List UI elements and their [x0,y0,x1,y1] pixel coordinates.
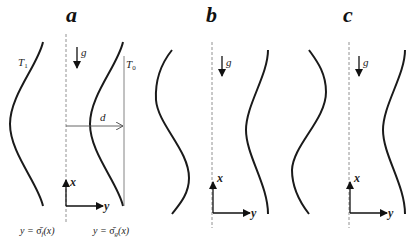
panel-a-x-axis-label: x [69,175,76,189]
panel-b-label: b [206,2,217,27]
panel-a-distance-label: d [100,111,106,123]
panel-a-right-interface-caption: y = σ̄g(x) [92,225,130,238]
panel-a-gravity-label: g⃗ [81,46,95,58]
panel-c: c g⃗ x y [292,2,405,228]
figure-canvas: a T1 T0 g⃗ d x y y = σ̄f(x) y = σ̄g(x) b [0,0,416,243]
panel-c-right-interface [383,50,405,214]
panel-b-x-axis-label: x [216,171,223,185]
panel-b-left-interface [156,50,189,214]
panel-b-y-axis-label: y [249,206,257,220]
panel-a-right-interface [90,42,123,206]
panel-a-right-wall-label: T0 [126,58,136,72]
panel-c-label: c [343,2,353,27]
panel-b-gravity-label: g⃗ [226,56,240,68]
panel-b-right-interface [246,50,268,214]
panel-a-left-wall-label: T1 [18,56,28,70]
panel-a: a T1 T0 g⃗ d x y y = σ̄f(x) y = σ̄g(x) [10,2,136,238]
panel-a-label: a [66,2,77,27]
panel-a-left-interface-caption: y = σ̄f(x) [19,225,55,238]
panel-c-left-interface [292,50,326,214]
panel-c-x-axis-label: x [353,171,360,185]
panel-c-y-axis-label: y [386,206,394,220]
panel-a-y-axis-label: y [102,199,110,213]
panel-c-gravity-label: g⃗ [363,56,377,68]
panel-b: b g⃗ x y [156,2,268,228]
